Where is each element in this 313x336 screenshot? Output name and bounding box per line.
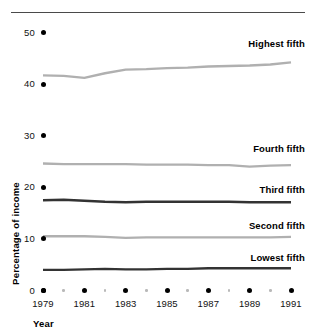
series-label-lowest-fifth: Lowest fifth: [0, 252, 305, 263]
y-axis-tick-dot: [41, 82, 46, 87]
x-axis-tick-label: 1987: [188, 299, 228, 309]
y-axis-tick-dot: [41, 236, 46, 241]
x-axis-tick-label: 1985: [147, 299, 187, 309]
series-label-fourth-fifth: Fourth fifth: [0, 143, 305, 154]
series-line: [43, 236, 291, 238]
income-distribution-chart: 010203040501979198119831985198719891991 …: [0, 0, 313, 336]
x-axis-minor-tick-dot: [186, 289, 189, 292]
x-axis-tick-dot: [206, 288, 211, 293]
x-axis-tick-label: 1991: [271, 299, 311, 309]
series-label-third-fifth: Third fifth: [0, 184, 305, 195]
y-axis-title: Percentage of income: [10, 174, 21, 294]
y-axis-tick-label: 30: [13, 131, 35, 141]
x-axis-minor-tick-dot: [104, 289, 107, 292]
x-axis-tick-dot: [165, 288, 170, 293]
x-axis-title: Year: [33, 318, 54, 329]
x-axis-minor-tick-dot: [269, 289, 272, 292]
plot-area: 010203040501979198119831985198719891991 …: [0, 0, 313, 336]
series-line: [43, 62, 291, 77]
x-axis-tick-label: 1983: [106, 299, 146, 309]
series-line: [43, 268, 291, 270]
x-axis-minor-tick-dot: [62, 289, 65, 292]
series-label-second-fifth: Second fifth: [0, 220, 305, 231]
series-lines: [0, 0, 313, 336]
x-axis-tick-label: 1989: [230, 299, 270, 309]
y-axis-tick-label: 40: [13, 79, 35, 89]
y-axis-tick-dot: [41, 30, 46, 35]
x-axis-minor-tick-dot: [145, 289, 148, 292]
x-axis-tick-dot: [82, 288, 87, 293]
series-line: [43, 164, 291, 167]
x-axis-tick-dot: [41, 288, 46, 293]
y-axis-tick-label: 50: [13, 28, 35, 38]
x-axis-tick-label: 1979: [23, 299, 63, 309]
series-label-highest-fifth: Highest fifth: [0, 38, 305, 49]
y-axis-tick-dot: [41, 133, 46, 138]
series-line: [43, 200, 291, 203]
x-axis-tick-label: 1981: [64, 299, 104, 309]
x-axis-tick-dot: [289, 288, 294, 293]
x-axis-minor-tick-dot: [228, 289, 231, 292]
